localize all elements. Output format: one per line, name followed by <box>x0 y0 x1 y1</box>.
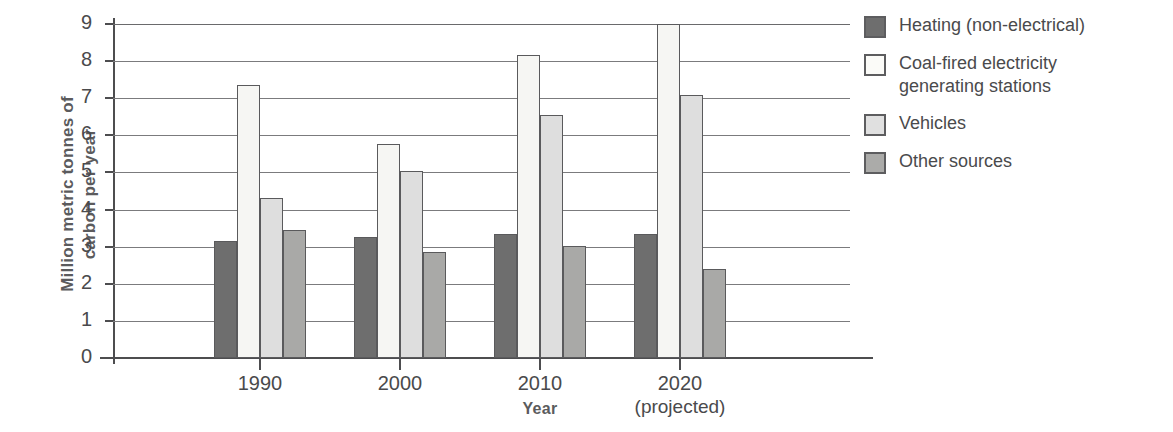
x-tick-mark <box>399 359 401 370</box>
legend-swatch-icon <box>864 114 886 136</box>
x-tick-label-2000: 2000 <box>330 371 470 395</box>
legend-swatch-icon <box>864 16 886 38</box>
bar-2010-series-1 <box>517 55 540 358</box>
legend-label: Heating (non-electrical) <box>899 14 1085 36</box>
x-tick-mark <box>679 359 681 370</box>
bars-layer <box>113 24 850 358</box>
x-tick-label-2010: 2010 <box>470 371 610 395</box>
legend-label: Coal-fired electricity generating statio… <box>899 52 1057 98</box>
y-tick-label: 5 <box>62 159 92 182</box>
y-tick-label: 3 <box>62 234 92 257</box>
y-tick-label: 8 <box>62 48 92 71</box>
bar-2010-series-2 <box>540 115 563 358</box>
legend-item-3[interactable]: Other sources <box>864 150 1169 174</box>
x-tick-label-1990: 1990 <box>190 371 330 395</box>
legend-swatch-icon <box>864 152 886 174</box>
bar-2000-series-1 <box>377 144 400 359</box>
x-tick-label-2020: 2020(projected) <box>610 371 750 419</box>
bar-2000-series-3 <box>423 252 446 358</box>
bar-1990-series-2 <box>260 198 283 358</box>
bar-2020-series-0 <box>634 234 657 358</box>
y-tick-label: 9 <box>62 11 92 34</box>
y-tick-label: 1 <box>62 308 92 331</box>
x-axis-title: Year <box>460 400 620 418</box>
x-tick-mark <box>539 359 541 370</box>
legend-label: Other sources <box>899 150 1012 172</box>
bar-2020-series-1 <box>657 24 680 358</box>
chart-legend: Heating (non-electrical)Coal-fired elect… <box>864 14 1169 188</box>
bar-2000-series-0 <box>354 237 377 358</box>
bar-1990-series-1 <box>237 85 260 358</box>
y-tick-label: 0 <box>62 345 92 368</box>
legend-label: Vehicles <box>899 112 966 134</box>
legend-item-0[interactable]: Heating (non-electrical) <box>864 14 1169 38</box>
bar-2020-series-2 <box>680 95 703 358</box>
bar-1990-series-0 <box>214 241 237 358</box>
y-tick-label: 7 <box>62 85 92 108</box>
bar-2010-series-3 <box>563 246 586 358</box>
chart-figure: Million metric tonnes of carbon per year… <box>0 0 1173 432</box>
y-tick-label: 2 <box>62 271 92 294</box>
bar-2020-series-3 <box>703 269 726 358</box>
bar-1990-series-3 <box>283 230 306 358</box>
bar-2000-series-2 <box>400 171 423 358</box>
bar-2010-series-0 <box>494 234 517 358</box>
x-tick-sublabel-2020: (projected) <box>610 395 750 419</box>
x-tick-mark <box>259 359 261 370</box>
legend-swatch-icon <box>864 54 886 76</box>
legend-item-2[interactable]: Vehicles <box>864 112 1169 136</box>
legend-item-1[interactable]: Coal-fired electricity generating statio… <box>864 52 1169 98</box>
y-tick-label: 6 <box>62 122 92 145</box>
plot-area <box>113 24 850 358</box>
y-tick-label: 4 <box>62 197 92 220</box>
